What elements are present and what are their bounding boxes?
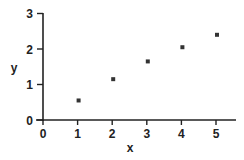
x-ticks: 012345 — [40, 120, 220, 141]
scatter-chart: 0123 012345 x y — [0, 0, 244, 160]
x-tick-label: 3 — [143, 127, 150, 141]
data-point-marker — [111, 77, 115, 81]
x-tick-label: 1 — [74, 127, 81, 141]
data-point-marker — [77, 98, 81, 102]
x-axis-label: x — [127, 141, 134, 155]
y-tick-label: 0 — [26, 114, 33, 128]
x-tick-label: 4 — [178, 127, 185, 141]
y-axis-label: y — [11, 61, 18, 75]
x-tick-label: 2 — [109, 127, 116, 141]
x-tick-label: 5 — [213, 127, 220, 141]
data-point-marker — [146, 59, 150, 63]
y-tick-label: 1 — [26, 78, 33, 92]
y-ticks: 0123 — [26, 7, 43, 128]
data-points — [77, 33, 219, 103]
y-tick-label: 2 — [26, 43, 33, 57]
y-tick-label: 3 — [26, 7, 33, 21]
x-tick-label: 0 — [40, 127, 47, 141]
data-point-marker — [215, 33, 219, 37]
data-point-marker — [180, 45, 184, 49]
